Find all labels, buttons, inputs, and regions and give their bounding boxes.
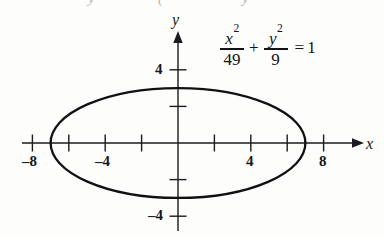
equation-plus-operator: + [249, 39, 259, 56]
ellipse-equation: x2 49 + y2 9 = 1 [218, 28, 316, 68]
y-axis-label: y [172, 12, 179, 28]
y-axis-arrowhead [173, 31, 182, 43]
x-tick-label--4: –4 [95, 154, 110, 169]
equation-term-1-exponent: 2 [233, 22, 239, 35]
x-tick-label-8: 8 [319, 154, 327, 169]
x-axis-label: x [366, 136, 373, 152]
equation-term-2-numerator: y2 [266, 28, 285, 48]
equation-right-hand-side: 1 [307, 39, 316, 56]
equation-term-2: y2 9 [264, 28, 288, 68]
x-axis-arrowhead [352, 138, 364, 148]
y-tick-label--4: –4 [148, 208, 163, 223]
equation-equals-sign: = [295, 39, 305, 56]
x-tick-label--8: –8 [22, 154, 37, 169]
equation-term-1-variable: x [225, 29, 233, 48]
figure-canvas: y ( y – [0, 0, 384, 237]
y-tick-label-4: 4 [155, 62, 163, 77]
equation-term-2-variable: y [269, 29, 277, 48]
ellipse-graph-svg [0, 0, 384, 237]
x-tick-label-4: 4 [246, 154, 254, 169]
equation-term-1-numerator: x2 [222, 28, 241, 48]
equation-term-1: x2 49 [220, 28, 244, 68]
equation-term-1-denominator: 49 [221, 50, 244, 68]
equation-term-2-exponent: 2 [277, 22, 283, 35]
equation-term-2-denominator: 9 [268, 50, 283, 68]
